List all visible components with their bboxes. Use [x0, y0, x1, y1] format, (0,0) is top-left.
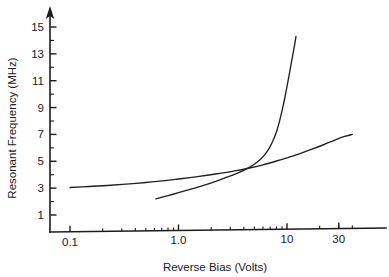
axes-group	[46, 6, 386, 232]
x-axis-tick-label: 30	[332, 233, 345, 245]
y-axis-tick-label: 5	[38, 155, 44, 167]
data-curve-shallow-curve	[70, 134, 352, 187]
axis-labels-group: 135791113150.11.01030Reverse Bias (Volts…	[6, 21, 345, 273]
x-axis-tick-label: 0.1	[62, 236, 78, 248]
x-axis-tick-label: 10	[281, 233, 294, 245]
y-axis-tick-label: 11	[32, 75, 44, 87]
x-axis-line	[50, 228, 386, 232]
data-curves-group	[70, 36, 352, 198]
y-axis-title: Resonant Frequency (MHz)	[6, 57, 18, 198]
y-axis-tick-label: 15	[31, 21, 44, 33]
y-axis-tick-label: 13	[31, 48, 44, 60]
x-axis-tick-label: 1.0	[171, 234, 187, 246]
y-axis-tick-label: 1	[38, 209, 44, 221]
x-axis-title: Reverse Bias (Volts)	[163, 261, 267, 273]
chart-container: 135791113150.11.01030Reverse Bias (Volts…	[0, 0, 389, 277]
resonant-frequency-plot: 135791113150.11.01030Reverse Bias (Volts…	[0, 0, 389, 277]
y-axis-tick-label: 9	[38, 102, 44, 114]
y-axis-tick-label: 7	[38, 128, 44, 140]
data-curve-steep-curve	[156, 36, 296, 198]
y-axis-tick-label: 3	[38, 182, 44, 194]
tick-marks-group	[50, 27, 352, 232]
